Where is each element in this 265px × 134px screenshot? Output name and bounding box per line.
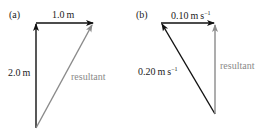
- label-b-010-main: 0.10 m s: [171, 10, 204, 21]
- label-b-resultant: resultant: [220, 61, 254, 71]
- label-b-010-exp: −1: [204, 10, 210, 16]
- label-b-010: 0.10 m s−1: [171, 10, 211, 21]
- label-b-020: 0.20 m s−1: [138, 66, 178, 77]
- label-b-020-main: 0.20 m s: [138, 66, 171, 77]
- panel-b-tag: (b): [136, 10, 148, 20]
- panel-a-tag: (a): [9, 10, 20, 20]
- label-a-1m: 1.0 m: [52, 10, 74, 20]
- label-a-2m: 2.0 m: [8, 68, 30, 78]
- label-b-020-exp: −1: [171, 66, 177, 72]
- label-a-resultant: resultant: [71, 72, 105, 82]
